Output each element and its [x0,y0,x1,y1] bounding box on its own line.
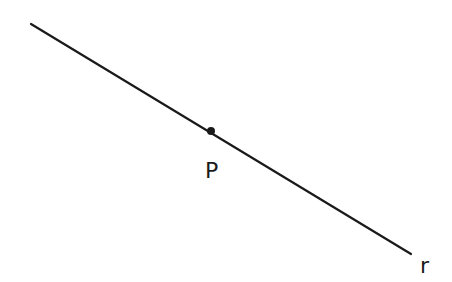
point-p [207,127,215,135]
point-label: P [205,158,218,183]
line-r [31,24,411,254]
line-label: r [420,253,430,278]
geometry-diagram: P r [0,0,452,282]
